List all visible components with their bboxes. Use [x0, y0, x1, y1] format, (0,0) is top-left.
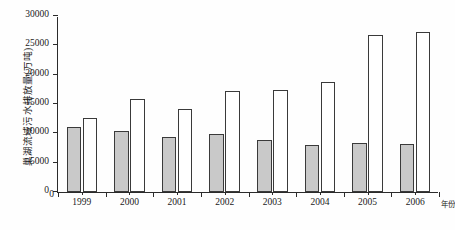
bar-gray — [162, 137, 177, 192]
x-tick-minor — [177, 192, 178, 195]
bar-gray — [209, 134, 224, 192]
y-tick-label: 20000 — [25, 68, 49, 78]
bar-gray — [114, 131, 129, 192]
bar-white — [368, 35, 383, 192]
bar-white — [273, 90, 288, 192]
bar-group — [249, 17, 297, 192]
plot-area: 050001000015000200002500030000 199920002… — [57, 17, 438, 193]
y-tick-label: 15000 — [25, 97, 49, 107]
x-tick-minor — [368, 192, 369, 195]
x-tick — [296, 192, 297, 197]
x-tick — [106, 192, 107, 197]
x-tick-minor — [129, 192, 130, 195]
bar-group — [153, 17, 201, 192]
bar-white — [416, 32, 431, 192]
bar-white — [83, 118, 98, 193]
x-tick — [439, 192, 440, 197]
x-tick — [249, 192, 250, 197]
x-tick-minor — [82, 192, 83, 195]
bar-gray — [305, 145, 320, 192]
bar-gray — [67, 127, 82, 192]
bar-gray — [352, 143, 367, 192]
x-tick-label: 2006 — [406, 197, 425, 207]
x-tick — [201, 192, 202, 197]
x-tick — [344, 192, 345, 197]
bar-group — [58, 17, 106, 192]
y-tick-label: 25000 — [25, 38, 49, 48]
x-tick — [58, 192, 59, 197]
bar-white — [178, 109, 193, 192]
y-tick-label: 30000 — [25, 9, 49, 19]
bar-group — [106, 17, 154, 192]
bar-group — [391, 17, 439, 192]
x-tick-label: 2001 — [168, 197, 187, 207]
bar-group — [201, 17, 249, 192]
y-tick-label: 5000 — [30, 156, 49, 166]
bar-gray — [257, 140, 272, 192]
x-tick-minor — [415, 192, 416, 195]
x-axis-title: 年份 — [441, 198, 455, 209]
x-tick-minor — [272, 192, 273, 195]
y-tick: 30000 — [53, 15, 58, 16]
x-tick-label: 1999 — [72, 197, 91, 207]
bar-group — [344, 17, 392, 192]
x-tick-minor — [320, 192, 321, 195]
x-tick-label: 2002 — [215, 197, 234, 207]
x-tick-label: 2003 — [263, 197, 282, 207]
x-tick — [391, 192, 392, 197]
bar-gray — [400, 144, 415, 192]
x-tick-label: 2005 — [358, 197, 377, 207]
x-tick-label: 2000 — [120, 197, 139, 207]
bar-white — [321, 82, 336, 192]
y-tick-label: 10000 — [25, 126, 49, 136]
y-tick-label-zero: 0 — [49, 189, 54, 199]
bar-white — [130, 99, 145, 192]
bar-white — [225, 91, 240, 192]
x-tick — [153, 192, 154, 197]
x-tick-label: 2004 — [310, 197, 329, 207]
bar-group — [296, 17, 344, 192]
x-tick-minor — [225, 192, 226, 195]
